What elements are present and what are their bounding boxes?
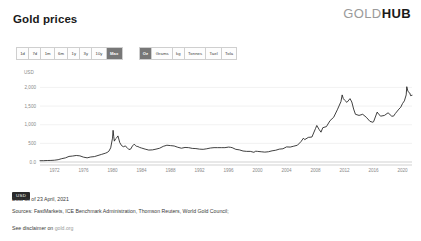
chart-controls: 1d7d1m6m1y3y10yMax OzGramskgTonnesTaelTo… [16,47,237,60]
x-tick-label-1980: 1980 [107,168,118,173]
chart-x-axis-labels: 1972197619801984198819921996200020042008… [49,168,408,173]
unit-button-tael[interactable]: Tael [206,48,221,59]
x-tick-label-1996: 1996 [223,168,234,173]
chart-gridlines [40,87,412,165]
x-tick-label-1976: 1976 [78,168,89,173]
range-button-10y[interactable]: 10y [92,48,106,59]
y-tick-label-500: 500 [28,141,36,146]
x-tick-label-1988: 1988 [165,168,176,173]
chart-svg: 0.05001,0001,5002,000 197219761980198419… [0,66,421,178]
goldhub-logo: GOLDHUB [343,6,411,21]
x-tick-label-1992: 1992 [194,168,205,173]
brand-gold-text: GOLD [343,6,381,21]
x-tick-label-2016: 2016 [368,168,379,173]
x-tick-label-2008: 2008 [310,168,321,173]
chart-y-axis-labels: 0.05001,0001,5002,000 [25,85,37,165]
unit-button-oz[interactable]: Oz [140,48,153,59]
y-tick-label-1500: 1,500 [25,104,37,109]
gold-org-link[interactable]: gold.org [55,225,74,231]
x-tick-label-1972: 1972 [49,168,60,173]
series-line-usd [40,87,412,161]
unit-button-grams[interactable]: Grams [152,48,172,59]
sources-text: Sources: FastMarkets, ICE Benchmark Admi… [12,206,412,217]
brand-hub-text: HUB [382,6,411,21]
range-button-1y[interactable]: 1y [68,48,80,59]
disclaimer-text: See disclaimer on gold.org [12,223,412,234]
range-button-3y[interactable]: 3y [80,48,92,59]
page-header: Gold prices GOLDHUB [0,0,421,40]
range-button-max[interactable]: Max [107,48,122,59]
range-button-1m[interactable]: 1m [41,48,54,59]
disclaimer-prefix: See disclaimer on [12,225,55,231]
y-axis-unit-label: USD [24,70,34,75]
x-tick-label-2004: 2004 [281,168,292,173]
unit-button-tonnes[interactable]: Tonnes [185,48,206,59]
y-tick-label-2000: 2,000 [25,85,37,90]
range-button-6m[interactable]: 6m [55,48,68,59]
range-button-7d[interactable]: 7d [29,48,41,59]
x-tick-label-2000: 2000 [252,168,263,173]
x-tick-label-2020: 2020 [397,168,408,173]
weight-unit-button-group: OzGramskgTonnesTaelTola [139,47,238,60]
chart-series-layer [40,87,412,161]
x-tick-label-1984: 1984 [136,168,147,173]
chart-footer: Data as of 23 April, 2021 Sources: FastM… [12,194,412,234]
y-tick-label-0: 0.0 [30,160,37,165]
unit-button-kg[interactable]: kg [173,48,185,59]
range-button-1d[interactable]: 1d [17,48,29,59]
time-range-button-group: 1d7d1m6m1y3y10yMax [16,47,123,60]
y-tick-label-1000: 1,000 [25,122,37,127]
unit-button-tola[interactable]: Tola [222,48,236,59]
x-tick-label-2012: 2012 [339,168,350,173]
page-title: Gold prices [13,13,77,25]
gold-price-chart: 0.05001,0001,5002,000 197219761980198419… [0,66,421,178]
data-as-of-text: Data as of 23 April, 2021 [12,194,412,205]
